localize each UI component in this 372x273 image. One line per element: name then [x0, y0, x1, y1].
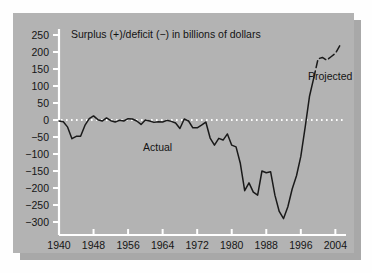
- y-tick-label: 200: [15, 46, 49, 58]
- series-line-actual: [59, 78, 314, 219]
- y-tick-label: 250: [15, 29, 49, 41]
- series-line-projected: [314, 46, 340, 78]
- figure-container: Surplus (+)/deficit (−) in billions of d…: [0, 0, 372, 273]
- y-tick-label: −150: [15, 165, 49, 177]
- y-tick-label: −100: [15, 148, 49, 160]
- y-tick-label: −50: [15, 131, 49, 143]
- axes-group: [53, 29, 346, 235]
- plot-area: [13, 13, 354, 253]
- x-tick-label: 2004: [315, 239, 354, 251]
- data-series-group: [59, 46, 340, 219]
- y-tick-label: −250: [15, 199, 49, 211]
- y-tick-label: 0: [15, 114, 49, 126]
- chart-panel: Surplus (+)/deficit (−) in billions of d…: [13, 13, 354, 253]
- y-tick-label: −200: [15, 182, 49, 194]
- y-tick-label: 150: [15, 63, 49, 75]
- y-tick-label: 50: [15, 97, 49, 109]
- y-tick-label: 100: [15, 80, 49, 92]
- y-tick-label: −300: [15, 216, 49, 228]
